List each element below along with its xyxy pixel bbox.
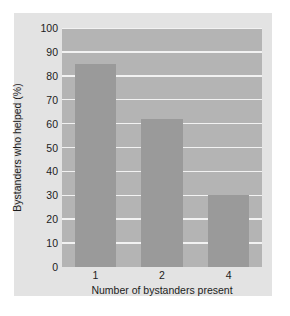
x-axis-tick-label: 1 [92, 270, 98, 281]
y-axis-tick-label: 90 [24, 47, 58, 58]
chart-figure: 0102030405060708090100 124 Number of bys… [0, 0, 290, 316]
x-axis-label: Number of bystanders present [62, 285, 262, 296]
plot-area [62, 28, 262, 267]
y-axis-tick-label: 40 [24, 166, 58, 177]
y-axis-tick-label: 30 [24, 190, 58, 201]
y-axis-tick-labels: 0102030405060708090100 [20, 28, 58, 267]
y-axis-tick-label: 10 [24, 238, 58, 249]
y-axis-tick-label: 50 [24, 142, 58, 153]
bar [141, 119, 182, 267]
y-axis-tick-label: 70 [24, 94, 58, 105]
y-axis-tick-label: 0 [24, 262, 58, 273]
y-axis-tick-label: 20 [24, 214, 58, 225]
y-axis-tick-label: 60 [24, 118, 58, 129]
gridline [62, 28, 262, 29]
x-axis-tick-label: 2 [159, 270, 165, 281]
bar [75, 64, 116, 267]
y-axis-tick-label: 100 [24, 23, 58, 34]
bar [208, 195, 249, 267]
y-axis-tick-label: 80 [24, 71, 58, 82]
x-axis-tick-label: 4 [226, 270, 232, 281]
gridline [62, 51, 262, 53]
y-axis-label: Bystanders who helped (%) [12, 28, 25, 267]
x-axis-tick-labels: 124 [62, 270, 262, 284]
